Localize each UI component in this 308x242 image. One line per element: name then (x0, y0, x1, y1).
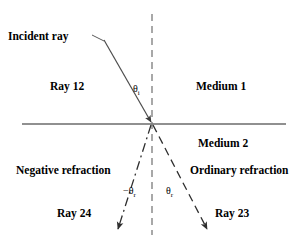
theta-refracted-negative-subscript: r (133, 191, 135, 199)
ray-24-label: Ray 24 (57, 208, 91, 220)
refraction-diagram: Incident ray Ray 12 Medium 1 Medium 2 Ne… (0, 0, 308, 242)
incident-ray-label: Incident ray (8, 31, 68, 43)
theta-refracted-negative-symbol: −θ (123, 185, 133, 196)
medium-2-label: Medium 2 (198, 138, 248, 150)
negative-refraction-ray-line (118, 125, 151, 229)
incident-ray-leader (92, 35, 104, 41)
ordinary-refraction-label: Ordinary refraction (190, 165, 288, 177)
theta-refracted-positive-label: θr (166, 186, 173, 199)
theta-incident-label: θi (133, 84, 140, 97)
medium-1-label: Medium 1 (196, 81, 246, 93)
negative-refraction-label: Negative refraction (16, 165, 111, 177)
ray-23-label: Ray 23 (215, 208, 249, 220)
theta-refracted-negative-label: −θr (123, 186, 136, 199)
theta-refracted-positive-subscript: r (171, 191, 173, 199)
ray-12-label: Ray 12 (50, 81, 84, 93)
incident-ray-line (104, 40, 151, 122)
theta-incident-subscript: i (138, 89, 140, 97)
